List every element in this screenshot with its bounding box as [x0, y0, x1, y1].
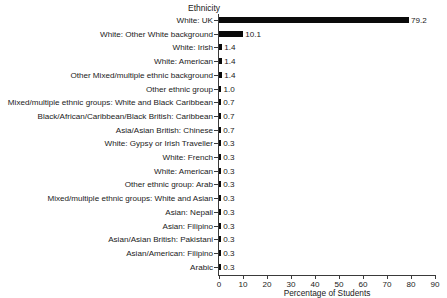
bar-row: White: Other White background10.1 [0, 30, 447, 44]
bar-value-label: 0.7 [223, 98, 234, 107]
y-axis-tick [214, 75, 218, 76]
x-axis-tick [291, 275, 292, 279]
category-label: Asian: Filipino [163, 222, 213, 231]
y-axis-tick [214, 198, 218, 199]
y-axis-tick [214, 226, 218, 227]
bar-row: Asian/American: Filipino0.3 [0, 249, 447, 263]
bar [219, 209, 221, 215]
x-axis-tick [219, 275, 220, 279]
bar-value-label: 0.3 [223, 139, 234, 148]
bar [219, 223, 221, 229]
bar-row: Other ethnic group: Arab0.3 [0, 180, 447, 194]
bar-row: White: American0.3 [0, 167, 447, 181]
y-axis-tick [214, 116, 218, 117]
bar-row: Mixed/multiple ethnic groups: White and … [0, 194, 447, 208]
category-label: White: UK [177, 16, 213, 25]
category-label: Asian/American: Filipino [126, 249, 213, 258]
x-axis-tick [267, 275, 268, 279]
x-axis-tick-label: 20 [255, 280, 279, 289]
y-axis-tick [214, 212, 218, 213]
category-label: White: Other White background [100, 30, 213, 39]
bar-row: Asian/Asian British: Pakistani0.3 [0, 235, 447, 249]
bar-value-label: 0.3 [223, 194, 234, 203]
y-axis-tick [214, 143, 218, 144]
bar-value-label: 1.4 [224, 71, 235, 80]
bar [219, 72, 222, 78]
x-axis-tick-label: 90 [423, 280, 447, 289]
bar [219, 140, 221, 146]
bar-value-label: 0.3 [223, 167, 234, 176]
bar-row: Asia/Asian British: Chinese0.7 [0, 126, 447, 140]
y-axis-tick [214, 253, 218, 254]
bar [219, 181, 221, 187]
x-axis-tick-label: 10 [231, 280, 255, 289]
category-label: Other Mixed/multiple ethnic background [70, 71, 213, 80]
bar-value-label: 0.7 [223, 126, 234, 135]
y-axis-tick [214, 102, 218, 103]
bar [219, 264, 221, 270]
y-axis-tick [214, 157, 218, 158]
category-label: Arabic [190, 263, 213, 272]
bar-value-label: 0.3 [223, 153, 234, 162]
bar [219, 113, 221, 119]
bar-value-label: 0.3 [223, 180, 234, 189]
bar-row: White: American1.4 [0, 57, 447, 71]
bar [219, 31, 243, 37]
x-axis-tick [243, 275, 244, 279]
category-label: White: American [154, 57, 213, 66]
bar [219, 58, 222, 64]
bar-value-label: 0.3 [223, 263, 234, 272]
category-label: White: Gypsy or Irish Traveller [105, 139, 213, 148]
bar [219, 99, 221, 105]
bar-row: White: UK79.2 [0, 16, 447, 30]
bar-value-label: 10.1 [245, 30, 261, 39]
bar [219, 44, 222, 50]
x-axis-tick [339, 275, 340, 279]
bar-row: Asian: Filipino0.3 [0, 222, 447, 236]
bar-row: White: Irish1.4 [0, 43, 447, 57]
category-label: White: American [154, 167, 213, 176]
bar [219, 168, 221, 174]
y-axis-tick [214, 20, 218, 21]
x-axis-title: Percentage of Students [218, 289, 436, 298]
x-axis-tick [387, 275, 388, 279]
x-axis-tick-label: 70 [375, 280, 399, 289]
bar-value-label: 1.4 [224, 43, 235, 52]
bar [219, 127, 221, 133]
category-label: Asian: Nepali [165, 208, 213, 217]
x-axis-tick [435, 275, 436, 279]
y-axis-tick [214, 130, 218, 131]
bar-value-label: 79.2 [411, 16, 427, 25]
y-axis-tick [214, 267, 218, 268]
bar-value-label: 0.3 [223, 249, 234, 258]
bar-row: White: Gypsy or Irish Traveller0.3 [0, 139, 447, 153]
x-axis-tick [315, 275, 316, 279]
bar [219, 17, 409, 23]
category-label: Other ethnic group [146, 85, 213, 94]
y-axis-tick [214, 171, 218, 172]
bar-row: White: French0.3 [0, 153, 447, 167]
bar-row: Arabic0.3 [0, 263, 447, 277]
x-axis-tick-label: 80 [399, 280, 423, 289]
bar-value-label: 0.3 [223, 208, 234, 217]
bar [219, 236, 221, 242]
bar [219, 154, 221, 160]
category-label: Mixed/multiple ethnic groups: White and … [8, 98, 213, 107]
y-axis-title: Ethnicity [188, 3, 220, 13]
y-axis-tick [214, 34, 218, 35]
y-axis-tick [214, 239, 218, 240]
bar-row: Asian: Nepali0.3 [0, 208, 447, 222]
y-axis-tick [214, 61, 218, 62]
bar-value-label: 0.3 [223, 235, 234, 244]
category-label: Asian/Asian British: Pakistani [108, 235, 213, 244]
category-label: Mixed/multiple ethnic groups: White and … [47, 194, 213, 203]
bar-value-label: 0.7 [223, 112, 234, 121]
bar-row: Other Mixed/multiple ethnic background1.… [0, 71, 447, 85]
y-axis-tick [214, 89, 218, 90]
category-label: Black/African/Caribbean/Black British: C… [38, 112, 213, 121]
y-axis-tick [214, 47, 218, 48]
x-axis-tick [411, 275, 412, 279]
bar [219, 195, 221, 201]
category-label: White: French [163, 153, 213, 162]
x-axis-tick-label: 0 [207, 280, 231, 289]
